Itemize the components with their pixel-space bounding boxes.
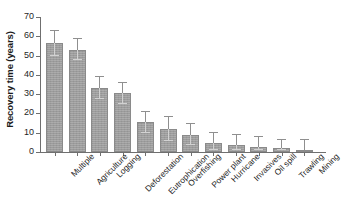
error-bar-upper-line <box>236 135 237 145</box>
y-axis-tick: 70 <box>36 17 40 18</box>
error-bar-upper-cap <box>209 132 218 133</box>
error-bar-upper-line <box>122 83 123 93</box>
bar-group[interactable] <box>228 131 245 152</box>
error-bar-upper-cap <box>277 139 286 140</box>
error-bar-upper-line <box>77 39 78 50</box>
y-axis-tick: 40 <box>36 75 40 76</box>
y-axis-tick-label: 10 <box>24 127 34 138</box>
bar-rect[interactable] <box>69 50 86 152</box>
bar-group[interactable] <box>69 35 86 152</box>
error-bar-lower-cap <box>50 55 59 56</box>
y-axis-tick-label: 30 <box>24 88 34 99</box>
bar-group[interactable] <box>91 73 108 152</box>
bar-group[interactable] <box>250 133 267 152</box>
y-axis-tick: 30 <box>36 94 40 95</box>
error-bar-upper-cap <box>141 111 150 112</box>
y-axis-tick-label: 40 <box>24 69 34 80</box>
x-axis-label: Multiple <box>69 152 96 179</box>
error-bar-upper-cap <box>118 82 127 83</box>
y-axis-spine <box>40 17 41 153</box>
error-bar-lower-cap <box>141 132 150 133</box>
plot-area: 706050403020100 <box>40 10 326 156</box>
error-bar-upper-cap <box>50 30 59 31</box>
y-axis-tick: 20 <box>36 113 40 114</box>
y-axis-tick-label: 50 <box>24 50 34 61</box>
error-bar-upper-cap <box>164 116 173 117</box>
error-bar-upper-line <box>304 140 305 150</box>
y-axis-tick: 10 <box>36 133 40 134</box>
bar-group[interactable] <box>46 27 63 152</box>
y-axis-tick-label: 20 <box>24 107 34 118</box>
error-bar-upper-cap <box>254 136 263 137</box>
bar-group[interactable] <box>296 136 313 152</box>
bar-group[interactable] <box>273 136 290 152</box>
error-bar-upper-line <box>258 137 259 147</box>
error-bar-upper-line <box>190 124 191 135</box>
y-axis-tick-label: 70 <box>24 11 34 22</box>
y-axis-tick-label: 0 <box>29 146 34 157</box>
error-bar-lower-cap <box>254 149 263 150</box>
error-bar-upper-cap <box>186 123 195 124</box>
error-bar-upper-line <box>281 140 282 148</box>
error-bar-upper-line <box>145 112 146 122</box>
y-axis-title: Recovery time (years) <box>0 0 18 158</box>
error-bar-upper-cap <box>232 134 241 135</box>
error-bar-upper-line <box>99 77 100 88</box>
error-bar-upper-cap <box>73 38 82 39</box>
error-bar-lower-cap <box>277 149 286 150</box>
error-bar-upper-line <box>213 133 214 144</box>
bar-group[interactable] <box>114 79 131 152</box>
error-bar-upper-cap <box>300 139 309 140</box>
error-bar-upper-cap <box>95 76 104 77</box>
error-bar-lower-cap <box>164 140 173 141</box>
bar-group[interactable] <box>160 113 177 152</box>
error-bar-lower-cap <box>95 98 104 99</box>
bar-group[interactable] <box>182 120 199 152</box>
error-bar-upper-line <box>54 31 55 43</box>
x-axis-labels: MultipleAgricultureLoggingDeforestationE… <box>40 152 330 220</box>
y-axis-tick: 50 <box>36 56 40 57</box>
error-bar-lower-cap <box>186 144 195 145</box>
bar-rect[interactable] <box>46 43 63 152</box>
y-axis-title-label: Recovery time (years) <box>4 31 15 128</box>
bar-group[interactable] <box>205 129 222 152</box>
error-bar-lower-cap <box>73 59 82 60</box>
error-bar-upper-line <box>168 117 169 129</box>
y-axis-tick: 60 <box>36 36 40 37</box>
y-axis-tick-label: 60 <box>24 30 34 41</box>
error-bar-lower-cap <box>232 149 241 150</box>
bar-group[interactable] <box>137 108 154 152</box>
error-bar-lower-cap <box>118 103 127 104</box>
error-bar-lower-cap <box>209 149 218 150</box>
